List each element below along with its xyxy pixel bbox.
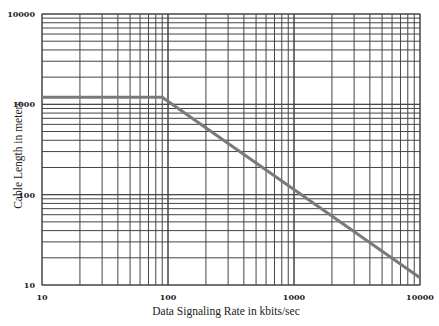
y-axis-label: Cable Length in meters [12, 101, 25, 209]
x-tick-label: 10000 [406, 292, 434, 302]
x-tick-label: 10 [36, 292, 48, 302]
x-tick-label: 1000 [283, 292, 306, 302]
x-tick-label: 100 [160, 292, 177, 302]
y-tick-label: 10000 [7, 9, 35, 19]
x-axis-label: Data Signaling Rate in kbits/sec [152, 305, 300, 318]
y-tick-label: 10 [24, 280, 36, 290]
x-axis-ticks: 10100100010000 [36, 292, 434, 302]
grid-lines [42, 14, 420, 285]
chart: 10100100010000 10100100010000 Data Signa… [0, 0, 439, 326]
plot-frame [42, 14, 420, 285]
